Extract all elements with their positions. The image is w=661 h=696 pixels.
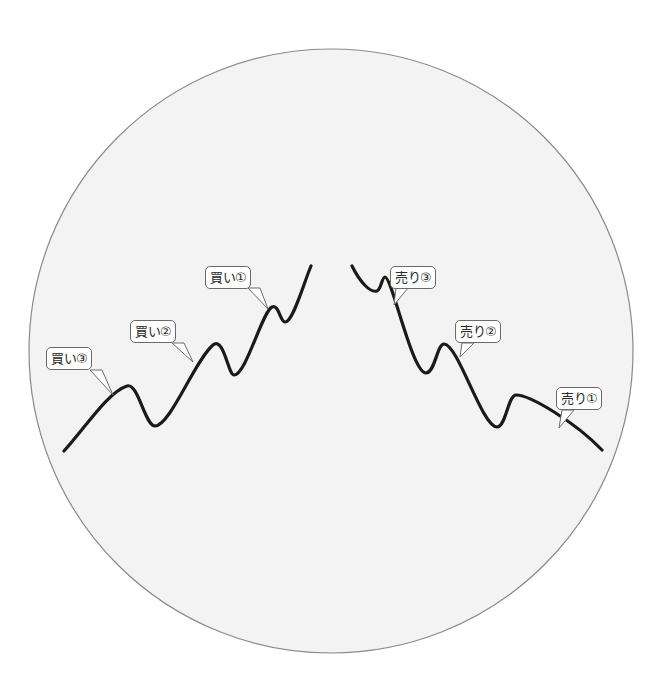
diagram-stage: 買い① 買い② 買い③ 売り③ 売り② 売り① [0, 0, 661, 696]
background-circle [29, 49, 633, 653]
callout-buy-1: 買い① [205, 266, 251, 289]
trend-diagram [0, 0, 661, 696]
callout-sell-1: 売り① [556, 387, 602, 410]
callout-sell-3: 売り③ [390, 266, 436, 289]
callout-buy-1-text: 買い① [210, 270, 246, 285]
callout-sell-2-text: 売り② [460, 324, 496, 339]
callout-sell-1-text: 売り① [561, 391, 597, 406]
callout-buy-3: 買い③ [46, 347, 92, 370]
callout-buy-2: 買い② [130, 320, 176, 343]
callout-sell-3-text: 売り③ [395, 270, 431, 285]
callout-buy-3-text: 買い③ [51, 351, 87, 366]
callout-buy-2-text: 買い② [135, 324, 171, 339]
callout-sell-2: 売り② [455, 320, 501, 343]
